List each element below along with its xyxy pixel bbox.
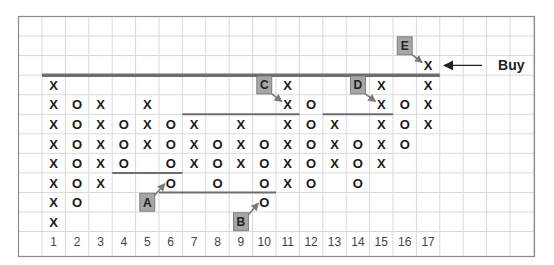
column-label: 1	[50, 235, 57, 249]
column-label: 17	[421, 235, 435, 249]
x-mark: X	[49, 195, 58, 210]
column-label: 2	[74, 235, 81, 249]
o-mark: O	[400, 117, 410, 132]
x-mark: X	[96, 97, 105, 112]
column-label: 6	[167, 235, 174, 249]
column-label: 13	[328, 235, 342, 249]
o-mark: O	[306, 117, 316, 132]
x-mark: X	[424, 78, 433, 93]
x-mark: X	[377, 78, 386, 93]
o-mark: O	[259, 156, 269, 171]
column-label: 3	[97, 235, 104, 249]
column-label: 11	[281, 235, 294, 249]
x-mark: X	[330, 156, 339, 171]
x-mark: X	[283, 137, 292, 152]
x-mark: X	[49, 117, 58, 132]
annotation-arrow	[155, 184, 165, 196]
x-mark: X	[190, 137, 199, 152]
column-label: 10	[258, 235, 272, 249]
o-mark: O	[119, 156, 129, 171]
x-mark: X	[283, 176, 292, 191]
buy-label: Buy	[498, 57, 525, 73]
o-mark: O	[212, 176, 222, 191]
annotation-arrow	[248, 203, 258, 215]
o-mark: O	[400, 137, 410, 152]
column-labels: 1234567891011121314151617	[50, 235, 435, 249]
column-label: 15	[375, 235, 389, 249]
o-mark: O	[166, 156, 176, 171]
o-mark: O	[306, 156, 316, 171]
o-mark: O	[166, 117, 176, 132]
o-mark: O	[166, 137, 176, 152]
o-mark: O	[353, 176, 363, 191]
x-mark: X	[283, 117, 292, 132]
o-mark: O	[119, 137, 129, 152]
o-mark: O	[72, 195, 82, 210]
o-mark: O	[353, 156, 363, 171]
x-mark: X	[424, 58, 433, 73]
x-mark: X	[283, 97, 292, 112]
o-mark: O	[306, 97, 316, 112]
annotation-b: B	[233, 203, 258, 231]
o-mark: O	[119, 117, 129, 132]
column-label: 14	[351, 235, 365, 249]
o-mark: O	[400, 97, 410, 112]
annotation-a: A	[140, 184, 165, 212]
x-mark: X	[377, 117, 386, 132]
x-mark: X	[237, 156, 246, 171]
x-mark: X	[190, 117, 199, 132]
annotation-label: B	[237, 215, 246, 229]
x-mark: X	[96, 176, 105, 191]
buy-signal: Buy	[444, 57, 525, 73]
o-mark: O	[259, 137, 269, 152]
o-mark: O	[72, 97, 82, 112]
annotation-e: E	[397, 37, 422, 63]
x-mark: X	[96, 156, 105, 171]
x-mark: X	[49, 137, 58, 152]
column-label: 8	[214, 235, 221, 249]
o-mark: O	[72, 137, 82, 152]
column-label: 12	[304, 235, 318, 249]
o-mark: O	[72, 117, 82, 132]
annotation-d: D	[350, 76, 375, 102]
annotation-label: C	[260, 78, 269, 92]
x-mark: X	[96, 137, 105, 152]
x-mark: X	[96, 117, 105, 132]
x-mark: X	[49, 176, 58, 191]
x-mark: X	[143, 97, 152, 112]
column-label: 16	[398, 235, 412, 249]
x-mark: X	[424, 117, 433, 132]
annotation-c: C	[257, 76, 282, 102]
annotation-label: D	[354, 78, 363, 92]
x-mark: X	[330, 117, 339, 132]
x-mark: X	[377, 156, 386, 171]
x-mark: X	[143, 137, 152, 152]
x-mark: X	[237, 117, 246, 132]
x-mark: X	[377, 97, 386, 112]
marks: XXXXXXOXXXOXOXXOXOXOXXXOXXOXXOXOXOXOXOXO…	[49, 58, 432, 229]
x-mark: X	[143, 117, 152, 132]
x-mark: X	[49, 215, 58, 230]
o-mark: O	[166, 176, 176, 191]
o-mark: O	[259, 176, 269, 191]
o-mark: O	[72, 156, 82, 171]
column-label: 5	[144, 235, 151, 249]
x-mark: X	[49, 78, 58, 93]
o-mark: O	[212, 156, 222, 171]
x-mark: X	[424, 97, 433, 112]
x-mark: X	[237, 137, 246, 152]
x-mark: X	[190, 156, 199, 171]
x-mark: X	[49, 97, 58, 112]
o-mark: O	[259, 195, 269, 210]
x-mark: X	[377, 137, 386, 152]
o-mark: O	[306, 176, 316, 191]
point-and-figure-chart: XXXXXXOXXXOXOXXOXOXOXXXOXXOXXOXOXOXOXOXO…	[0, 0, 554, 265]
column-label: 7	[191, 235, 198, 249]
x-mark: X	[330, 137, 339, 152]
o-mark: O	[353, 137, 363, 152]
column-label: 4	[121, 235, 128, 249]
o-mark: O	[212, 137, 222, 152]
x-mark: X	[283, 156, 292, 171]
column-label: 9	[238, 235, 245, 249]
o-mark: O	[72, 176, 82, 191]
